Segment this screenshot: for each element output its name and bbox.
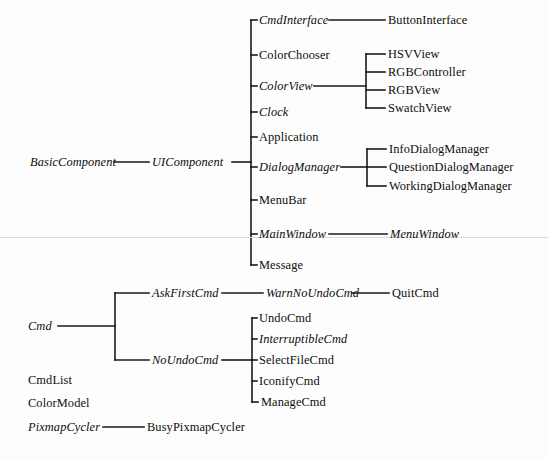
node-cmdlist[interactable]: CmdList: [28, 374, 72, 386]
node-noundocmd[interactable]: NoUndoCmd: [152, 354, 218, 366]
class-hierarchy-diagram: BasicComponent UIComponent CmdInterface …: [0, 0, 548, 460]
node-quitcmd[interactable]: QuitCmd: [392, 287, 439, 299]
node-rgbview[interactable]: RGBView: [388, 84, 440, 96]
node-managecmd[interactable]: ManageCmd: [261, 396, 326, 408]
node-cmdinterface[interactable]: CmdInterface: [259, 14, 328, 26]
node-clock[interactable]: Clock: [259, 106, 288, 118]
node-warnnoundocmd[interactable]: WarnNoUndoCmd: [266, 287, 359, 299]
node-menubar[interactable]: MenuBar: [259, 194, 307, 206]
node-askfirstcmd[interactable]: AskFirstCmd: [152, 287, 219, 299]
node-buttoninterface[interactable]: ButtonInterface: [388, 14, 467, 26]
node-colormodel[interactable]: ColorModel: [28, 397, 90, 409]
node-selectfilecmd[interactable]: SelectFileCmd: [259, 354, 334, 366]
node-questiondialogmanager[interactable]: QuestionDialogManager: [389, 161, 514, 173]
node-dialogmanager[interactable]: DialogManager: [259, 161, 340, 173]
node-interruptiblecmd[interactable]: InterruptibleCmd: [259, 333, 347, 345]
node-iconifycmd[interactable]: IconifyCmd: [259, 375, 320, 387]
node-colorview[interactable]: ColorView: [259, 80, 313, 92]
node-rgbcontroller[interactable]: RGBController: [388, 66, 466, 78]
node-busypixmapcycler[interactable]: BusyPixmapCycler: [147, 421, 245, 433]
node-uicomponent[interactable]: UIComponent: [152, 156, 223, 168]
node-undocmd[interactable]: UndoCmd: [259, 312, 311, 324]
node-message[interactable]: Message: [259, 259, 303, 271]
node-menuwindow[interactable]: MenuWindow: [390, 228, 459, 240]
node-hsvview[interactable]: HSVView: [388, 48, 440, 60]
node-mainwindow[interactable]: MainWindow: [259, 228, 326, 240]
node-basiccomponent[interactable]: BasicComponent: [30, 156, 116, 168]
node-colorchooser[interactable]: ColorChooser: [259, 49, 330, 61]
node-pixmapcycler[interactable]: PixmapCycler: [28, 421, 100, 433]
node-workingdialogmanager[interactable]: WorkingDialogManager: [389, 180, 512, 192]
node-cmd[interactable]: Cmd: [28, 320, 52, 332]
node-infodialogmanager[interactable]: InfoDialogManager: [389, 143, 489, 155]
node-application[interactable]: Application: [259, 131, 319, 143]
node-swatchview[interactable]: SwatchView: [388, 102, 452, 114]
